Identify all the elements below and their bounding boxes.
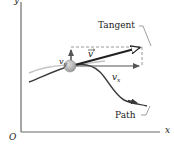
path-curve [29,64,147,106]
velocity-components-diagram: y x O Tangent Path v vx vy [0,0,174,148]
tangent-leader-line [139,26,151,46]
velocity-vector-arrow [71,48,140,67]
diagram-canvas [0,0,174,148]
velocity-label: v [88,50,93,59]
tangent-label: Tangent [98,21,135,30]
vy-label-base: v [59,57,64,66]
origin-label: O [9,133,16,142]
vy-label-sub: y [64,60,67,67]
vy-label: vy [59,51,67,67]
path-label: Path [115,111,135,120]
y-axis-label: y [14,0,19,5]
x-axis-label: x [165,126,170,135]
path-leader-line [141,106,150,115]
vx-label-sub: x [117,76,120,83]
vx-label: vx [112,67,120,83]
